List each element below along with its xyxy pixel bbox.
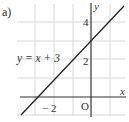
y-axis-label: y [93, 0, 99, 12]
y-tick-label-4: 4 [83, 16, 89, 28]
equation-label: y = x + 3 [16, 52, 60, 65]
y-tick-label-2: 2 [83, 55, 89, 67]
part-label: a) [2, 5, 11, 19]
x-axis-label: x [119, 85, 125, 97]
x-tick-label-neg2: − 2 [42, 102, 56, 114]
graph-figure: a) y = x + 3 y x O − 2 2 4 [0, 0, 129, 122]
origin-label: O [81, 100, 89, 112]
